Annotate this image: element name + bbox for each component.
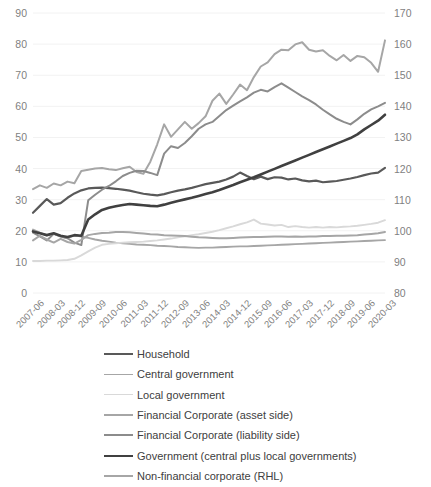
legend-swatch (104, 475, 133, 477)
series-line (33, 40, 385, 189)
plot-area (0, 0, 431, 340)
y-axis-right-tick: 130 (394, 132, 428, 142)
y-axis-left-tick: 60 (0, 101, 27, 111)
y-axis-left-tick: 20 (0, 226, 27, 236)
y-axis-right-tick: 90 (394, 257, 428, 267)
y-axis-right-tick: 120 (394, 164, 428, 174)
y-axis-right-tick: 160 (394, 39, 428, 49)
legend-swatch (104, 374, 133, 375)
legend-swatch (104, 414, 133, 416)
y-axis-left-tick: 80 (0, 39, 27, 49)
y-axis-left-tick: 70 (0, 70, 27, 80)
y-axis-right-tick: 150 (394, 70, 428, 80)
legend-swatch (104, 434, 133, 436)
gridlines (33, 13, 385, 293)
legend-swatch (104, 455, 133, 457)
chart-legend: HouseholdCentral governmentLocal governm… (104, 344, 424, 486)
legend-label: Financial Corporate (asset side) (137, 409, 293, 421)
series-line (33, 168, 385, 213)
y-axis-left-tick: 30 (0, 195, 27, 205)
legend-item[interactable]: Non-financial corporate (RHL) (104, 466, 424, 486)
y-axis-right-tick: 140 (394, 101, 428, 111)
y-axis-left-tick: 0 (0, 288, 27, 298)
y-axis-right-tick: 100 (394, 226, 428, 236)
legend-item[interactable]: Local government (104, 385, 424, 405)
legend-label: Government (central plus local governmen… (137, 450, 356, 462)
y-axis-right-tick: 170 (394, 8, 428, 18)
legend-item[interactable]: Financial Corporate (asset side) (104, 405, 424, 425)
y-axis-right-tick: 110 (394, 195, 428, 205)
legend-label: Local government (137, 389, 224, 401)
legend-swatch (104, 353, 133, 355)
series-lines (33, 40, 385, 261)
legend-item[interactable]: Financial Corporate (liability side) (104, 425, 424, 445)
legend-label: Non-financial corporate (RHL) (137, 470, 283, 482)
y-axis-left-tick: 10 (0, 257, 27, 267)
legend-label: Household (137, 348, 190, 360)
y-axis-left-tick: 40 (0, 164, 27, 174)
legend-item[interactable]: Central government (104, 364, 424, 384)
legend-label: Financial Corporate (liability side) (137, 429, 300, 441)
legend-item[interactable]: Government (central plus local governmen… (104, 445, 424, 465)
legend-swatch (104, 394, 133, 395)
legend-label: Central government (137, 368, 234, 380)
y-axis-left-tick: 90 (0, 8, 27, 18)
y-axis-left-tick: 50 (0, 132, 27, 142)
y-axis-right-tick: 80 (394, 288, 428, 298)
line-chart: 0102030405060708090 80901001101201301401… (0, 0, 431, 487)
legend-item[interactable]: Household (104, 344, 424, 364)
